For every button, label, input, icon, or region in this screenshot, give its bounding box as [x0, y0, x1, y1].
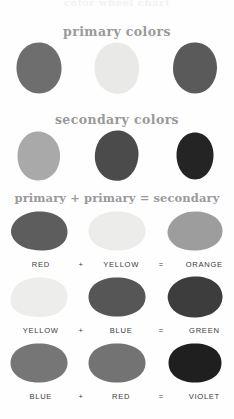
- swatch-cell-primary-yellow: [78, 41, 156, 95]
- equation-row-3-swatches: [0, 340, 234, 386]
- swatch-cell-eq3-violet: [156, 342, 234, 384]
- swatch-cell-secondary-orange: [0, 130, 78, 182]
- swatch-eq2-green: [166, 275, 224, 319]
- swatch-cell-secondary-violet: [156, 131, 234, 181]
- swatch-cell-eq1-orange: [156, 210, 234, 252]
- swatch-cell-eq3-red: [78, 342, 156, 384]
- swatch-yellow: [93, 41, 141, 95]
- eq2-term2-label: BLUE: [94, 326, 148, 335]
- equation-row-1-labels: RED + YELLOW = ORANGE: [0, 260, 234, 269]
- swatch-eq2-blue: [87, 276, 147, 318]
- color-theory-diagram: color wheel chart primary colors seconda…: [0, 0, 234, 419]
- eq1-result-label: ORANGE: [175, 260, 234, 269]
- equation-row-2-labels: YELLOW + BLUE = GREEN: [0, 326, 234, 335]
- top-cropped-text: color wheel chart: [0, 0, 234, 6]
- eq2-equals-symbol: =: [148, 326, 175, 335]
- eq1-term1-label: RED: [14, 260, 68, 269]
- equations-heading: primary + primary = secondary: [0, 191, 234, 205]
- swatch-eq1-red: [9, 210, 69, 252]
- swatch-cell-eq2-green: [156, 275, 234, 319]
- eq3-term1-label: BLUE: [14, 392, 68, 401]
- eq2-plus-symbol: +: [68, 326, 95, 335]
- swatch-green: [93, 129, 141, 183]
- swatch-eq1-yellow: [87, 210, 147, 252]
- swatch-orange: [16, 130, 62, 182]
- eq1-plus-symbol: +: [68, 260, 95, 269]
- eq2-result-label: GREEN: [175, 326, 234, 335]
- swatch-eq1-orange: [166, 210, 224, 252]
- eq3-equals-symbol: =: [148, 392, 175, 401]
- eq3-result-label: VIOLET: [175, 392, 234, 401]
- swatch-eq3-blue: [9, 342, 69, 384]
- swatch-violet: [175, 131, 215, 181]
- swatch-cell-eq1-red: [0, 210, 78, 252]
- swatch-blue: [171, 41, 219, 95]
- swatch-cell-eq2-yellow: [0, 276, 78, 318]
- swatch-cell-eq1-yellow: [78, 210, 156, 252]
- equation-row-1-swatches: [0, 208, 234, 254]
- eq1-term2-label: YELLOW: [94, 260, 148, 269]
- secondary-colors-heading: secondary colors: [0, 112, 234, 127]
- eq1-equals-symbol: =: [148, 260, 175, 269]
- swatch-eq3-violet: [167, 342, 223, 384]
- swatch-cell-primary-blue: [156, 41, 234, 95]
- equation-row-2-swatches: [0, 274, 234, 320]
- eq2-term1-label: YELLOW: [14, 326, 68, 335]
- secondary-swatch-row: [0, 128, 234, 184]
- swatch-cell-eq3-blue: [0, 342, 78, 384]
- swatch-eq3-red: [87, 342, 147, 384]
- primary-swatch-row: [0, 40, 234, 96]
- swatch-red: [15, 41, 63, 95]
- equation-row-3-labels: BLUE + RED = VIOLET: [0, 392, 234, 401]
- eq3-term2-label: RED: [94, 392, 148, 401]
- swatch-cell-secondary-green: [78, 129, 156, 183]
- swatch-cell-primary-red: [0, 41, 78, 95]
- swatch-cell-eq2-blue: [78, 276, 156, 318]
- primary-colors-heading: primary colors: [0, 24, 234, 39]
- eq3-plus-symbol: +: [68, 392, 95, 401]
- swatch-eq2-yellow: [9, 276, 69, 318]
